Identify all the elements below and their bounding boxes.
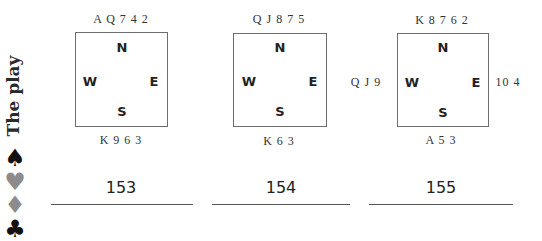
south-hand: A 5 3: [425, 133, 456, 148]
compass-box: N W E S: [233, 33, 327, 127]
deal-number: 155: [426, 178, 457, 197]
east-label: E: [150, 74, 159, 89]
deal-number: 153: [106, 178, 137, 197]
divider-line: [212, 204, 350, 205]
diamond-icon: ♦: [4, 193, 26, 217]
north-label: N: [275, 40, 286, 55]
section-title: The play: [3, 56, 23, 137]
south-hand: K 6 3: [263, 134, 295, 149]
south-label: S: [438, 105, 447, 120]
compass-box: N W E S: [75, 32, 168, 127]
south-label: S: [117, 104, 126, 119]
east-label: E: [472, 75, 481, 90]
east-label: E: [309, 74, 318, 89]
south-hand: K 9 6 3: [100, 133, 143, 148]
deal-number: 154: [266, 178, 297, 197]
compass-box: N W E S: [397, 33, 489, 127]
east-hand: 10 4: [496, 75, 521, 90]
divider-line: [51, 204, 193, 205]
north-label: N: [117, 40, 128, 55]
north-hand: Q J 8 7 5: [253, 12, 305, 27]
spade-icon: ♠: [4, 146, 26, 170]
west-label: W: [405, 75, 419, 90]
north-label: N: [438, 40, 449, 55]
west-label: W: [83, 74, 97, 89]
north-hand: A Q 7 4 2: [93, 12, 149, 27]
south-label: S: [275, 104, 284, 119]
north-hand: K 8 7 6 2: [415, 13, 469, 28]
divider-line: [369, 204, 513, 205]
club-icon: ♣: [4, 217, 26, 241]
west-hand: Q J 9: [351, 75, 381, 90]
west-label: W: [242, 74, 256, 89]
